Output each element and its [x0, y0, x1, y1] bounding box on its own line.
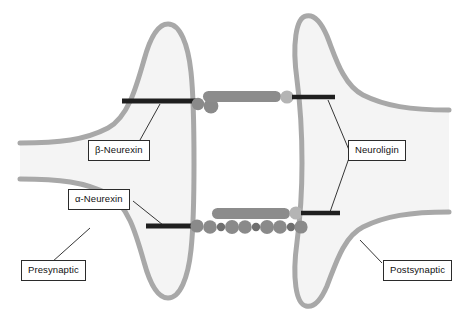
alpha-neurexin-domain: [238, 220, 252, 234]
presynaptic-membrane: [20, 24, 194, 298]
label-presynaptic: Presynaptic: [21, 260, 86, 281]
label-postsynaptic: Postsynaptic: [383, 260, 452, 281]
alpha-neurexin-domain: [287, 223, 295, 231]
alpha-neurexin-domain: [225, 220, 239, 234]
label-beta-neurexin: β-Neurexin: [88, 140, 150, 161]
beta-neurexin-domain-1: [192, 98, 204, 110]
leader-postsynaptic: [360, 240, 382, 263]
alpha-neurexin-domain: [190, 219, 203, 232]
upper-neuroligin-stalk-head: [280, 90, 293, 103]
alpha-neurexin-domain: [273, 220, 287, 234]
label-neuroligin: Neuroligin: [348, 140, 406, 161]
lower-neuroligin-stalk-head: [289, 206, 302, 219]
alpha-neurexin-domain: [260, 220, 274, 234]
alpha-neurexin-domain: [203, 220, 217, 234]
upper-neuroligin-ectodomain-rod: [203, 91, 281, 102]
alpha-neurexin-domain: [217, 223, 225, 231]
lower-neuroligin-ectodomain-rod: [212, 208, 290, 219]
leader-presynaptic: [52, 228, 90, 262]
alpha-neurexin-domain: [294, 220, 307, 233]
alpha-neurexin-domain: [252, 223, 260, 231]
label-alpha-neurexin: α-Neurexin: [68, 189, 130, 210]
